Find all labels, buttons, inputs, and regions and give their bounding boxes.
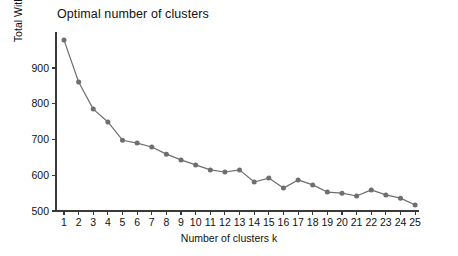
- x-tick-label: 23: [380, 216, 392, 228]
- data-point: [222, 170, 227, 175]
- data-series: [62, 38, 418, 208]
- y-tick-label: 700: [31, 133, 49, 145]
- y-tick-label: 800: [31, 97, 49, 109]
- y-tick-label: 600: [31, 169, 49, 181]
- data-point: [91, 107, 96, 112]
- x-tick-label: 19: [321, 216, 333, 228]
- x-tick-label: 13: [234, 216, 246, 228]
- x-axis-label: Number of clusters k: [0, 232, 458, 244]
- data-point: [339, 191, 344, 196]
- data-point: [383, 192, 388, 197]
- x-tick-label: 1: [61, 216, 67, 228]
- x-tick-label: 10: [190, 216, 202, 228]
- x-axis: 1234567891011121314151617181920212223242…: [56, 211, 421, 228]
- y-axis: 500600700800900: [31, 32, 56, 217]
- data-point: [76, 79, 81, 84]
- y-tick-label: 900: [31, 62, 49, 74]
- data-point: [325, 190, 330, 195]
- series-line: [64, 40, 415, 205]
- x-tick-label: 7: [149, 216, 155, 228]
- data-point: [354, 193, 359, 198]
- data-point: [135, 141, 140, 146]
- x-tick-label: 20: [336, 216, 348, 228]
- data-point: [164, 152, 169, 157]
- plot-area: 500600700800900 123456789101112131415161…: [0, 0, 458, 256]
- data-point: [369, 187, 374, 192]
- data-point: [179, 157, 184, 162]
- x-tick-label: 16: [278, 216, 290, 228]
- data-point: [252, 180, 257, 185]
- data-point: [193, 162, 198, 167]
- x-tick-label: 24: [395, 216, 407, 228]
- x-tick-label: 14: [248, 216, 260, 228]
- x-tick-label: 15: [263, 216, 275, 228]
- x-tick-label: 8: [163, 216, 169, 228]
- x-tick-label: 9: [178, 216, 184, 228]
- data-point: [296, 177, 301, 182]
- data-point: [281, 186, 286, 191]
- x-tick-label: 22: [365, 216, 377, 228]
- elbow-plot-figure: Optimal number of clusters Total Within …: [0, 0, 458, 256]
- x-tick-label: 12: [219, 216, 231, 228]
- x-tick-label: 18: [307, 216, 319, 228]
- x-tick-label: 4: [105, 216, 111, 228]
- data-point: [413, 202, 418, 207]
- data-point: [149, 145, 154, 150]
- y-tick-label: 500: [31, 205, 49, 217]
- data-point: [105, 119, 110, 124]
- data-point: [398, 196, 403, 201]
- data-point: [237, 167, 242, 172]
- data-point: [310, 182, 315, 187]
- x-tick-label: 2: [76, 216, 82, 228]
- x-tick-label: 17: [292, 216, 304, 228]
- data-point: [62, 38, 67, 43]
- data-point: [208, 167, 213, 172]
- data-point: [266, 176, 271, 181]
- x-tick-label: 21: [351, 216, 363, 228]
- data-point: [120, 138, 125, 143]
- x-tick-label: 11: [205, 216, 216, 228]
- x-tick-label: 25: [409, 216, 421, 228]
- x-tick-label: 3: [90, 216, 96, 228]
- x-tick-label: 6: [134, 216, 140, 228]
- x-tick-label: 5: [120, 216, 126, 228]
